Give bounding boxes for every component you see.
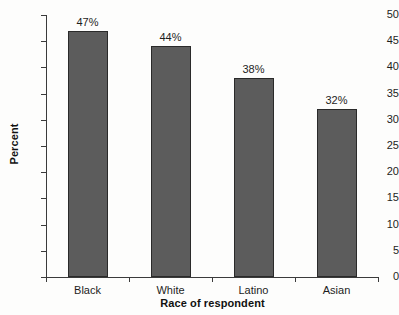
bar-white xyxy=(151,46,191,277)
y-tick-10 xyxy=(41,225,47,226)
y-tick-label: 25 xyxy=(361,140,399,151)
x-tick xyxy=(212,277,213,282)
x-tick-label-white: White xyxy=(131,284,211,297)
y-tick-label: 15 xyxy=(361,192,399,203)
y-tick-5 xyxy=(41,251,47,252)
y-tick-50 xyxy=(41,15,47,16)
y-tick-40 xyxy=(41,67,47,68)
y-tick-15 xyxy=(41,198,47,199)
y-tick-label: 30 xyxy=(361,114,399,125)
y-tick-30 xyxy=(41,120,47,121)
bar-chart: 05101520253035404550 47%44%38%32% BlackW… xyxy=(0,0,399,315)
x-tick xyxy=(46,277,47,282)
bar-asian xyxy=(317,109,357,277)
bar-value-label: 38% xyxy=(229,63,279,75)
y-tick-label: 5 xyxy=(361,245,399,256)
bar-black xyxy=(68,31,108,277)
y-tick-20 xyxy=(41,172,47,173)
y-tick-label: 40 xyxy=(361,61,399,72)
x-tick xyxy=(295,277,296,282)
x-tick-label-black: Black xyxy=(48,284,128,297)
y-tick-label: 35 xyxy=(361,88,399,99)
bar-value-label: 47% xyxy=(63,16,113,28)
y-tick-label: 45 xyxy=(361,35,399,46)
y-tick-45 xyxy=(41,41,47,42)
y-axis-title: Percent xyxy=(8,99,20,189)
bar-latino xyxy=(234,78,274,277)
bar-value-label: 44% xyxy=(146,31,196,43)
x-tick xyxy=(129,277,130,282)
y-tick-label: 0 xyxy=(361,271,399,282)
x-axis-title: Race of respondent xyxy=(47,297,378,309)
y-tick-35 xyxy=(41,94,47,95)
bar-value-label: 32% xyxy=(312,94,362,106)
y-tick-label: 50 xyxy=(361,9,399,20)
x-tick-label-asian: Asian xyxy=(297,284,377,297)
y-tick-label: 10 xyxy=(361,219,399,230)
x-tick xyxy=(378,277,379,282)
x-tick-label-latino: Latino xyxy=(214,284,294,297)
y-tick-25 xyxy=(41,146,47,147)
y-tick-label: 20 xyxy=(361,166,399,177)
